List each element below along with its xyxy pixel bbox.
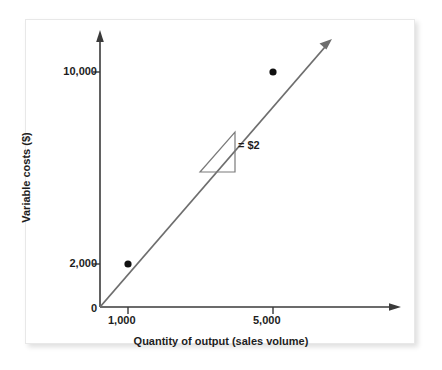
figure-root: 10,000 2,000 0 1,000 5,000 Quantity of o… [0, 0, 442, 370]
x-axis-tick-label-1000: 1,000 [108, 315, 136, 326]
x-axis-tick-label-5000: 5,000 [253, 315, 281, 326]
origin-label: 0 [91, 303, 97, 314]
slope-annotation-label: = $2 [238, 140, 260, 151]
y-axis-tick-label-2000: 2,000 [69, 258, 97, 269]
x-axis-title: Quantity of output (sales volume) [0, 336, 442, 347]
y-axis-title: Variable costs ($) [21, 128, 32, 228]
y-axis-tick-label-10000: 10,000 [63, 66, 97, 77]
